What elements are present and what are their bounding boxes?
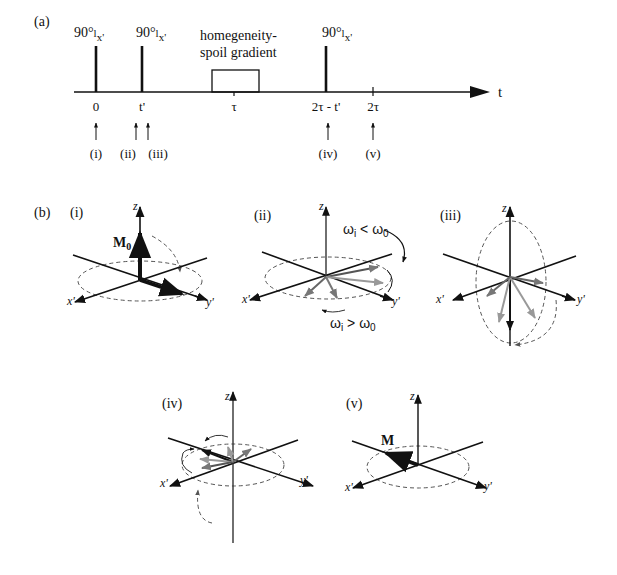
marker-iv-label: (iv) xyxy=(319,146,338,161)
rotation-path-icon xyxy=(152,236,180,272)
y-axis-label: y' xyxy=(483,479,492,493)
marker-iii-label: (iii) xyxy=(148,146,168,161)
diagram-ii: (ii) z x' y' ωi < ω0 ωi > ω0 xyxy=(241,199,404,333)
y-axis-label: y' xyxy=(391,294,400,308)
z-axis-label: z xyxy=(409,389,415,403)
isochromat-vector-icon xyxy=(326,267,378,277)
z-axis-label: z xyxy=(501,201,507,215)
nmr-echo-figure: (a) t 90°lx' 0 90°lx' t' homegeneity- sp… xyxy=(0,0,617,575)
pulse-1-time-label: 0 xyxy=(93,99,100,114)
refocused-m-vector-icon xyxy=(386,453,418,465)
gradient-label-line1: homegeneity- xyxy=(200,28,277,43)
x-axis-label: x' xyxy=(344,480,353,494)
rotation-path-icon xyxy=(198,490,212,523)
diagram-iii-label: (iii) xyxy=(440,208,461,224)
marker-ii-label: (ii) xyxy=(120,146,136,161)
pulse-2-label: 90°lx' xyxy=(136,25,166,43)
two-tau-label: 2τ xyxy=(367,99,379,114)
x-axis-label: x' xyxy=(159,476,168,490)
panel-a-label: (a) xyxy=(34,14,50,30)
diagram-i: (i) z x' y' M0 xyxy=(66,199,214,309)
x-axis-label: x' xyxy=(435,292,444,306)
y-axis-label: y' xyxy=(299,473,308,487)
marker-v-label: (v) xyxy=(365,146,380,161)
x-axis-arrow-icon xyxy=(250,254,392,300)
z-axis-label: z xyxy=(318,199,324,213)
diagram-v-label: (v) xyxy=(346,396,363,412)
z-axis-label: z xyxy=(132,199,138,213)
time-markers: (i) (ii) (iii) (iv) (v) xyxy=(90,123,381,161)
slow-rotation-arc-icon xyxy=(387,270,392,292)
diagram-ii-label: (ii) xyxy=(254,208,271,224)
tau-label: τ xyxy=(231,99,236,114)
gradient-label-line2: spoil gradient xyxy=(200,45,277,60)
pulse-2-time-label: t' xyxy=(139,99,145,114)
refocus-rotation-arrow-icon xyxy=(205,435,228,441)
y-axis-label: y' xyxy=(205,295,214,309)
x-axis-label: x' xyxy=(66,294,75,308)
isochromat-vector-icon xyxy=(326,277,337,298)
rotation-path-icon xyxy=(515,300,556,345)
slow-isochromat-label: ωi < ω0 xyxy=(343,221,389,239)
m-rotated-vector-icon xyxy=(140,280,182,294)
m0-label: M0 xyxy=(113,235,131,252)
diagram-iii: (iii) z x' y' xyxy=(435,201,585,346)
spoil-gradient-box xyxy=(212,70,259,92)
fast-rotation-arrow-icon xyxy=(322,310,345,312)
pulse-3-label: 90°lx' xyxy=(322,25,352,43)
isochromat-vector-icon xyxy=(510,277,535,318)
x-axis-arrow-icon xyxy=(170,440,298,486)
y-axis-label: y' xyxy=(576,292,585,306)
m-vector-label: M xyxy=(381,433,394,448)
diagram-i-label: (i) xyxy=(70,205,84,221)
isochromat-vector-icon xyxy=(305,277,326,296)
isochromat-vector-icon xyxy=(326,277,383,283)
time-axis-label: t xyxy=(498,84,503,100)
isochromat-vector-icon xyxy=(510,277,543,283)
panel-a-pulse-sequence: (a) t 90°lx' 0 90°lx' t' homegeneity- sp… xyxy=(34,14,503,161)
z-axis-label: z xyxy=(224,389,230,403)
pulse-3-time-label: 2τ - t' xyxy=(312,99,341,114)
x-axis-label: x' xyxy=(241,292,250,306)
time-axis-arrowhead-icon xyxy=(470,86,490,98)
marker-i-label: (i) xyxy=(90,146,102,161)
y-axis-arrow-icon xyxy=(562,296,575,300)
fast-isochromat-label: ωi > ω0 xyxy=(330,315,376,333)
pulse-1-label: 90°lx' xyxy=(74,25,104,43)
diagram-iv-label: (iv) xyxy=(162,396,183,412)
diagram-v: (v) z x' y' M xyxy=(344,389,492,494)
diagram-iv: (iv) z x' y' xyxy=(159,389,313,543)
panel-b-label: (b) xyxy=(34,205,51,221)
